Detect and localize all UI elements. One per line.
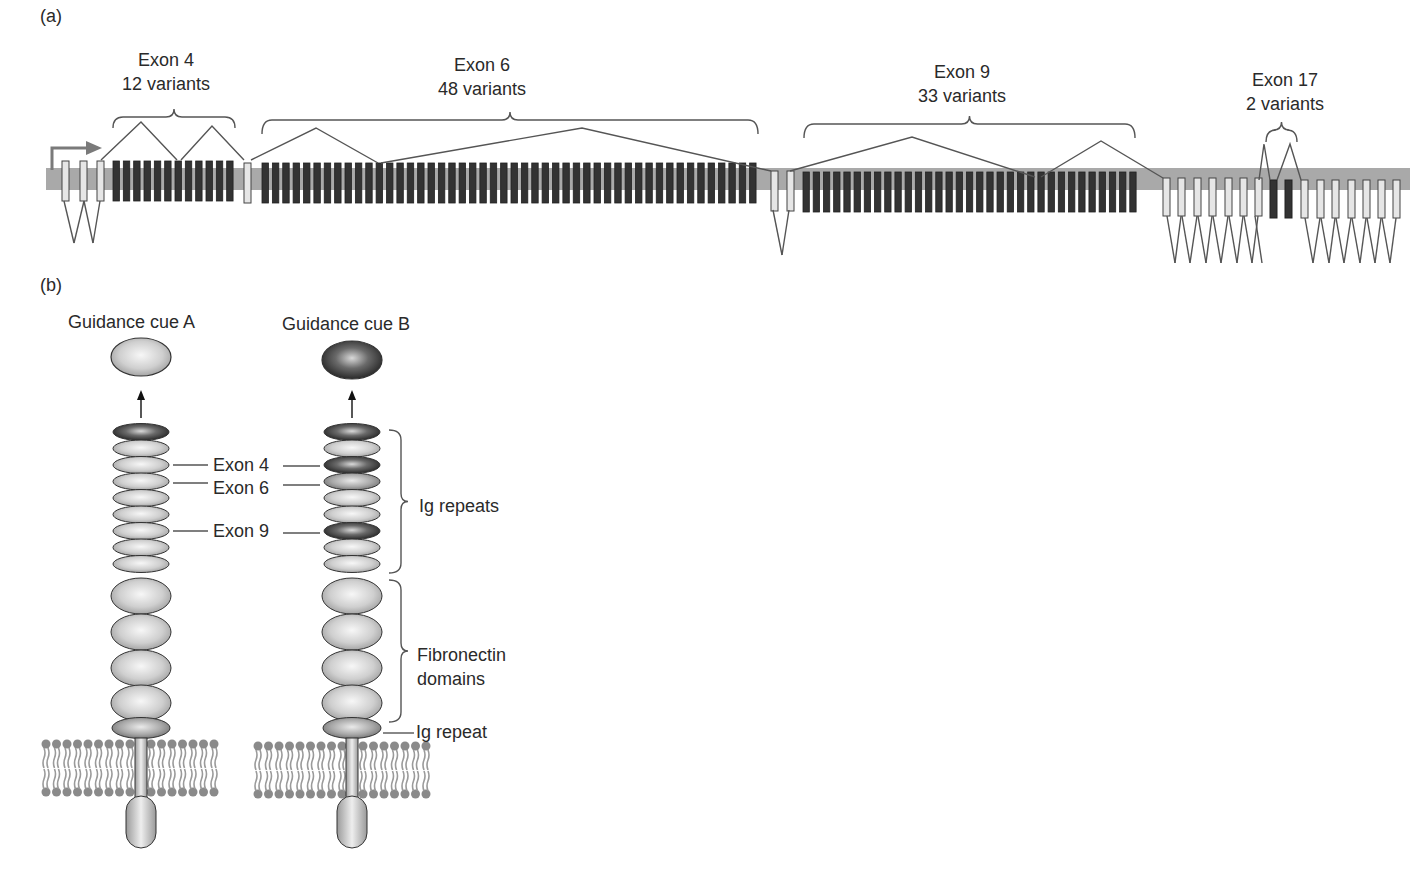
lipid-head xyxy=(359,790,368,799)
constant-exon xyxy=(1240,178,1247,216)
variable-exon xyxy=(304,163,310,203)
lipid-head xyxy=(63,788,72,797)
variable-exon xyxy=(677,163,683,203)
lipid-head xyxy=(264,790,273,799)
panel-a-label: (a) xyxy=(40,6,62,28)
lipid-tail xyxy=(43,769,49,789)
constant-exon xyxy=(1225,178,1232,216)
lipid-tail xyxy=(287,750,293,770)
lipid-tail xyxy=(180,769,186,789)
constant-exon xyxy=(1348,180,1355,218)
lipid-tail xyxy=(75,769,81,789)
variable-exon xyxy=(262,163,268,203)
constant-exon xyxy=(1393,180,1400,218)
variable-exon xyxy=(459,163,465,203)
ig-repeats-label: Ig repeats xyxy=(419,496,499,518)
lipid-tail xyxy=(85,769,91,789)
splice-line xyxy=(1352,218,1360,263)
lipid-head xyxy=(380,742,389,751)
constant-exon xyxy=(1255,178,1262,216)
variable-exon xyxy=(324,163,330,203)
variable-exon xyxy=(113,161,119,201)
lipid-tail xyxy=(106,748,112,768)
splice-line xyxy=(1344,218,1351,263)
splice-line xyxy=(1336,218,1344,263)
variable-exon xyxy=(834,172,840,212)
lipid-head xyxy=(189,788,198,797)
lipid-tail xyxy=(190,748,196,768)
exon6-variants: 48 variants xyxy=(438,79,526,101)
lipid-head xyxy=(285,790,294,799)
ig-domain xyxy=(324,490,380,507)
lipid-head xyxy=(390,790,399,799)
ig-domain xyxy=(324,473,380,490)
variable-exon xyxy=(387,163,393,203)
lipid-head xyxy=(369,790,378,799)
variable-exon xyxy=(646,163,652,203)
fibronectin-label-line2: domains xyxy=(417,669,485,691)
lipid-tail xyxy=(148,769,154,789)
variable-exon xyxy=(729,163,735,203)
lipid-head xyxy=(105,740,114,749)
guidance-cue-icon xyxy=(111,338,171,376)
lipid-head xyxy=(401,742,410,751)
lipid-tail xyxy=(75,748,81,768)
lipid-tail xyxy=(266,750,272,770)
ig-domain xyxy=(113,523,169,540)
variable-exon xyxy=(227,161,233,201)
fibronectin-domain xyxy=(111,578,171,614)
splice-line xyxy=(1206,216,1212,263)
constant-exon xyxy=(80,161,87,201)
variable-exon xyxy=(905,172,911,212)
ig-domain-proximal xyxy=(323,718,381,739)
lipid-head xyxy=(178,740,187,749)
fibronectin-domain xyxy=(322,685,382,721)
variable-exon xyxy=(206,161,212,201)
lipid-head xyxy=(317,742,326,751)
ig-domain xyxy=(324,523,380,540)
diagram-canvas xyxy=(0,0,1425,871)
variable-exon xyxy=(532,163,538,203)
fibronectin-label-line1: Fibronectin xyxy=(417,645,506,667)
fibronectin-domain xyxy=(111,614,171,650)
variable-exon xyxy=(397,163,403,203)
constant-exon xyxy=(771,171,778,211)
lipid-head xyxy=(296,742,305,751)
splice-line xyxy=(1329,218,1335,263)
lipid-tail xyxy=(339,750,345,770)
lipid-tail xyxy=(308,750,314,770)
variable-exon xyxy=(915,172,921,212)
exon17-variant xyxy=(1270,180,1277,218)
lipid-tail xyxy=(180,748,186,768)
lipid-tail xyxy=(360,750,366,770)
variable-exon xyxy=(854,172,860,212)
lipid-head xyxy=(52,740,61,749)
lipid-head xyxy=(401,790,410,799)
lipid-head xyxy=(411,790,420,799)
lipid-tail xyxy=(159,748,165,768)
arrow-head-icon xyxy=(348,390,356,400)
variable-exon xyxy=(987,172,993,212)
splice-line xyxy=(1367,218,1375,263)
ig-domain xyxy=(324,506,380,523)
exon9-variants: 33 variants xyxy=(918,86,1006,108)
variable-exon xyxy=(511,163,517,203)
variable-exon xyxy=(314,163,320,203)
lipid-tail xyxy=(211,748,217,768)
splice-peak xyxy=(251,128,378,163)
constant-exon xyxy=(1363,180,1370,218)
exon4-domain-label: Exon 4 xyxy=(213,455,269,477)
variable-exon xyxy=(293,163,299,203)
variable-exon xyxy=(490,163,496,203)
fibronectin-domain xyxy=(111,650,171,686)
lipid-head xyxy=(63,740,72,749)
variable-exon xyxy=(739,163,745,203)
lipid-tail xyxy=(297,750,303,770)
variable-exon xyxy=(366,163,372,203)
variable-exon xyxy=(966,172,972,212)
lipid-head xyxy=(317,790,326,799)
variable-exon xyxy=(604,163,610,203)
lipid-head xyxy=(296,790,305,799)
lipid-tail xyxy=(211,769,217,789)
splice-line xyxy=(1175,216,1181,263)
